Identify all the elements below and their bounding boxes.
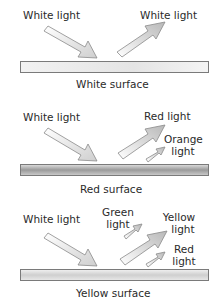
red-light-label-line1: Red: [174, 243, 194, 255]
green-light-label: Green light: [101, 206, 135, 230]
surface-label: Yellow surface: [76, 287, 150, 299]
red-light-label-line2: light: [172, 255, 195, 267]
green-light-label-line1: Green: [102, 206, 134, 218]
green-light-label-line2: light: [106, 218, 129, 230]
incoming-light-label: White light: [23, 213, 80, 225]
yellow-surface-panel: White light Green light Yellow light Red…: [0, 0, 220, 305]
yellow-light-label: Yellow light: [158, 211, 200, 235]
yellow-light-label-line2: light: [163, 223, 194, 235]
red-light-label: Red light: [168, 243, 200, 267]
yellow-surface-bar: [20, 269, 209, 281]
yellow-light-label-line1: Yellow: [163, 211, 195, 223]
